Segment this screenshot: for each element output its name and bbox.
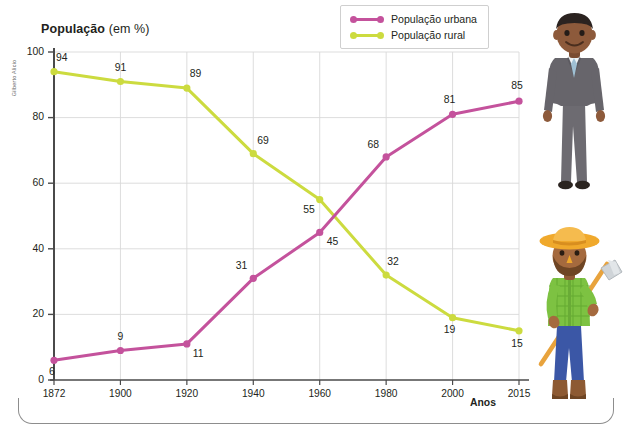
data-point bbox=[383, 271, 390, 278]
legend-item-rural: População rural bbox=[350, 27, 477, 43]
data-point bbox=[316, 229, 323, 236]
data-point bbox=[250, 275, 257, 282]
data-point-label: 11 bbox=[193, 348, 204, 359]
data-point bbox=[383, 153, 390, 160]
data-point bbox=[117, 347, 124, 354]
data-point-label: 19 bbox=[444, 324, 456, 335]
data-point-label: 81 bbox=[444, 94, 456, 105]
data-point-label: 45 bbox=[327, 236, 339, 247]
data-point bbox=[515, 98, 522, 105]
y-axis-ticks: 020406080100 bbox=[27, 46, 54, 385]
data-point bbox=[50, 68, 57, 75]
chart-title-light: (em %) bbox=[109, 22, 150, 36]
data-point bbox=[449, 314, 456, 321]
data-point-label: 9 bbox=[118, 331, 124, 342]
data-point bbox=[515, 327, 522, 334]
line-urbana bbox=[54, 101, 519, 360]
y-tick-label: 80 bbox=[32, 111, 44, 122]
data-labels-urbana: 69113145688185 bbox=[49, 80, 523, 377]
data-point bbox=[117, 78, 124, 85]
x-axis-caption: Anos bbox=[470, 397, 496, 408]
data-point-label: 6 bbox=[49, 366, 55, 377]
legend-swatch-urbana-icon bbox=[350, 14, 384, 24]
data-point-label: 91 bbox=[115, 62, 127, 73]
legend-swatch-rural-icon bbox=[350, 30, 384, 40]
x-axis-ticks: 18721900192019401960198020002015 bbox=[43, 380, 531, 399]
data-point-label: 15 bbox=[511, 338, 523, 349]
legend-label-urbana: População urbana bbox=[391, 13, 477, 25]
legend-label-rural: População rural bbox=[391, 29, 465, 41]
data-point-label: 68 bbox=[368, 139, 380, 150]
chart-page: População (em %) Gilberto Alicio Populaç… bbox=[0, 0, 634, 428]
legend-item-urbana: População urbana bbox=[350, 11, 477, 27]
credit-text: Gilberto Alicio bbox=[11, 47, 17, 109]
data-point bbox=[183, 340, 190, 347]
data-point-label: 85 bbox=[511, 80, 523, 91]
y-tick-label: 100 bbox=[27, 46, 45, 57]
line-rural bbox=[54, 72, 519, 331]
series-rural bbox=[50, 68, 522, 334]
series-urbana bbox=[50, 98, 522, 364]
farmer-figure bbox=[523, 222, 627, 420]
y-tick-label: 20 bbox=[32, 308, 44, 319]
y-tick-label: 0 bbox=[38, 374, 44, 385]
y-tick-label: 60 bbox=[32, 177, 44, 188]
data-labels-rural: 9491896955321915 bbox=[56, 52, 523, 349]
chart-legend: População urbana População rural bbox=[340, 5, 489, 49]
data-point bbox=[183, 84, 190, 91]
axes bbox=[50, 48, 529, 380]
y-tick-label: 40 bbox=[32, 243, 44, 254]
data-point bbox=[250, 150, 257, 157]
data-point bbox=[50, 357, 57, 364]
data-point-label: 55 bbox=[303, 204, 315, 215]
gridlines bbox=[54, 52, 519, 380]
data-point-label: 31 bbox=[236, 260, 248, 271]
data-point-label: 32 bbox=[387, 256, 399, 267]
data-point bbox=[449, 111, 456, 118]
data-point-label: 94 bbox=[56, 52, 68, 63]
data-point-label: 69 bbox=[257, 135, 269, 146]
data-point-label: 89 bbox=[190, 68, 202, 79]
chart-title: População (em %) bbox=[41, 22, 150, 36]
data-point bbox=[316, 196, 323, 203]
businessman-figure bbox=[527, 6, 623, 202]
chart-title-strong: População bbox=[41, 22, 105, 36]
